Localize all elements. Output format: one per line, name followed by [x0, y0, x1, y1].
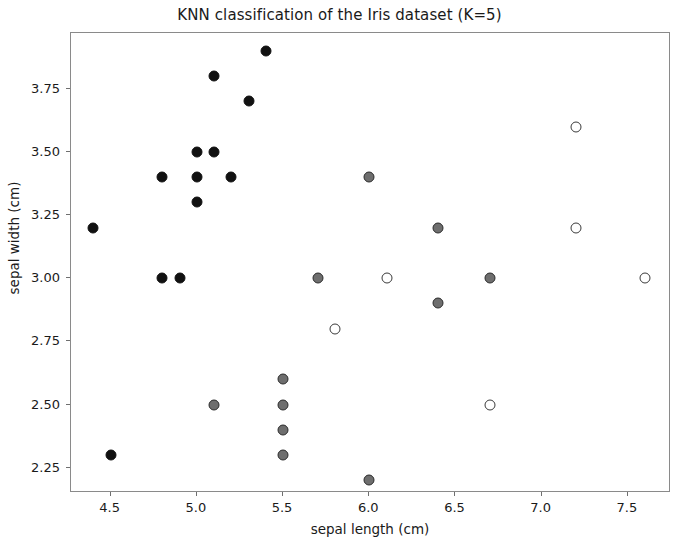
scatter-point — [278, 374, 289, 385]
y-tick-mark — [66, 151, 70, 152]
x-axis-label: sepal length (cm) — [70, 521, 670, 537]
scatter-point — [484, 273, 495, 284]
scatter-point — [364, 475, 375, 486]
scatter-point — [278, 450, 289, 461]
x-tick-mark — [627, 492, 628, 496]
scatter-point — [157, 273, 168, 284]
y-axis-label: sepal width (cm) — [6, 138, 22, 338]
scatter-point — [191, 197, 202, 208]
x-tick-label: 7.5 — [617, 500, 638, 515]
scatter-point — [571, 222, 582, 233]
y-tick-mark — [66, 88, 70, 89]
scatter-point — [381, 273, 392, 284]
x-tick-label: 7.0 — [530, 500, 551, 515]
scatter-point — [571, 121, 582, 132]
scatter-point — [226, 172, 237, 183]
x-tick-mark — [541, 492, 542, 496]
x-tick-mark — [282, 492, 283, 496]
scatter-point — [278, 399, 289, 410]
x-tick-mark — [196, 492, 197, 496]
x-tick-mark — [454, 492, 455, 496]
y-tick-mark — [66, 340, 70, 341]
plot-area — [70, 32, 670, 492]
figure-canvas: KNN classification of the Iris dataset (… — [0, 0, 679, 547]
scatter-point — [209, 146, 220, 157]
scatter-point — [364, 172, 375, 183]
scatter-point — [312, 273, 323, 284]
x-tick-mark — [368, 492, 369, 496]
x-tick-label: 4.5 — [99, 500, 120, 515]
x-tick-label: 5.0 — [186, 500, 207, 515]
x-tick-label: 6.5 — [444, 500, 465, 515]
y-tick-label: 3.75 — [0, 80, 60, 95]
y-tick-mark — [66, 404, 70, 405]
scatter-point — [329, 323, 340, 334]
page-title: KNN classification of the Iris dataset (… — [0, 6, 679, 24]
scatter-point — [433, 222, 444, 233]
scatter-point — [105, 450, 116, 461]
scatter-point — [433, 298, 444, 309]
scatter-point — [243, 96, 254, 107]
scatter-point — [640, 273, 651, 284]
y-tick-label: 2.50 — [0, 396, 60, 411]
scatter-point — [191, 146, 202, 157]
scatter-point — [484, 399, 495, 410]
scatter-point — [209, 70, 220, 81]
scatter-point — [278, 424, 289, 435]
scatter-point — [260, 45, 271, 56]
x-tick-label: 6.0 — [358, 500, 379, 515]
scatter-point — [174, 273, 185, 284]
scatter-point — [209, 399, 220, 410]
x-tick-mark — [110, 492, 111, 496]
y-tick-mark — [66, 277, 70, 278]
y-tick-mark — [66, 467, 70, 468]
y-tick-mark — [66, 214, 70, 215]
scatter-point — [88, 222, 99, 233]
scatter-point — [191, 172, 202, 183]
scatter-point — [157, 172, 168, 183]
x-tick-label: 5.5 — [272, 500, 293, 515]
y-tick-label: 2.25 — [0, 459, 60, 474]
